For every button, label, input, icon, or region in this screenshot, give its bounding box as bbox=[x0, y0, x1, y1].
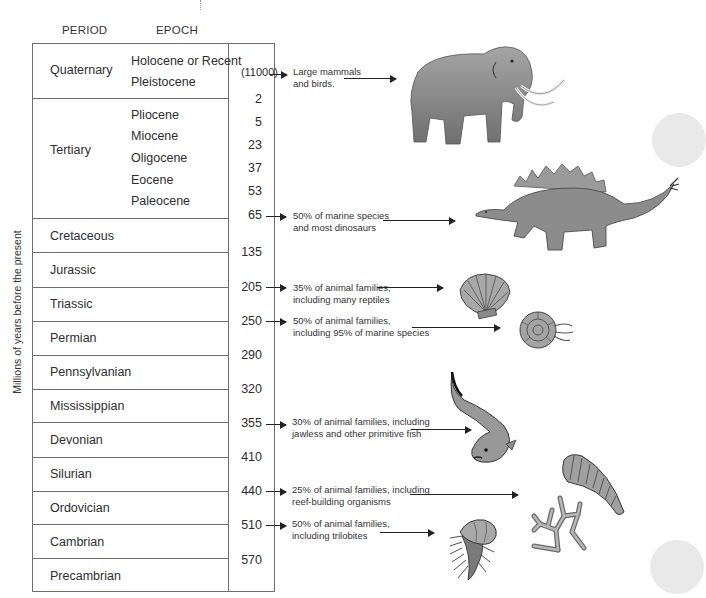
age-135: 135 bbox=[226, 245, 262, 259]
age-205: 205 bbox=[226, 280, 262, 294]
period-pennsylvanian: Pennsylvanian bbox=[50, 365, 131, 379]
age-53: 53 bbox=[226, 184, 262, 198]
row-divider bbox=[32, 457, 229, 458]
mammoth-icon bbox=[404, 42, 574, 152]
arrow-to-trilobite bbox=[380, 532, 434, 533]
period-cambrian: Cambrian bbox=[50, 535, 104, 549]
period-devonian: Devonian bbox=[50, 433, 103, 447]
row-divider bbox=[32, 355, 229, 356]
epoch-header: EPOCH bbox=[156, 24, 198, 36]
branching-coral-icon bbox=[528, 490, 588, 554]
epoch-paleocene: Paleocene bbox=[131, 194, 190, 208]
age-250: 250 bbox=[226, 314, 262, 328]
period-permian: Permian bbox=[50, 331, 97, 345]
arrow-to-mammoth bbox=[344, 78, 396, 79]
arrow-to-coral bbox=[410, 494, 518, 495]
row-divider bbox=[32, 389, 229, 390]
extinction-note-355: 30% of animal families, including jawles… bbox=[292, 416, 430, 440]
arrow-to-stegosaurus bbox=[383, 220, 455, 221]
epoch-pliocene: Pliocene bbox=[131, 108, 179, 122]
arrow-age-440 bbox=[266, 491, 286, 492]
age-37: 37 bbox=[226, 161, 262, 175]
arrow-age-205 bbox=[266, 287, 286, 288]
period-silurian: Silurian bbox=[50, 467, 92, 481]
age-65: 65 bbox=[226, 208, 262, 222]
arrow-age-65 bbox=[266, 216, 286, 217]
period-triassic: Triassic bbox=[50, 297, 93, 311]
arrow-age-510 bbox=[266, 525, 286, 526]
age-510: 510 bbox=[226, 518, 262, 532]
row-divider bbox=[32, 558, 229, 559]
row-divider bbox=[32, 287, 229, 288]
scallop-shell-icon bbox=[456, 272, 516, 318]
extinction-note-440: 25% of animal families, including reef-b… bbox=[292, 484, 430, 508]
extinction-note-510: 50% of animal families, including trilob… bbox=[292, 518, 390, 542]
period-precambrian: Precambrian bbox=[50, 569, 121, 583]
row-divider bbox=[32, 98, 229, 99]
row-divider bbox=[32, 491, 229, 492]
age-5: 5 bbox=[226, 115, 262, 129]
period-header: PERIOD bbox=[62, 24, 107, 36]
arrow-to-ammonite bbox=[412, 327, 500, 328]
epoch-eocene: Eocene bbox=[131, 173, 173, 187]
age-440: 440 bbox=[226, 484, 262, 498]
y-axis-label: Millions of years before the present bbox=[11, 227, 23, 397]
extinction-note-205: 35% of animal families, including many r… bbox=[293, 282, 391, 306]
extinction-note-65: 50% of marine species and most dinosaurs bbox=[293, 210, 389, 234]
epoch-holocene: Holocene or Recent bbox=[131, 54, 241, 68]
age-410: 410 bbox=[226, 450, 262, 464]
arrow-age-250 bbox=[266, 321, 286, 322]
row-divider bbox=[32, 218, 229, 219]
arrow-to-shell bbox=[377, 287, 443, 288]
period-tertiary: Tertiary bbox=[50, 143, 91, 157]
row-divider bbox=[32, 422, 229, 423]
period-mississippian: Mississippian bbox=[50, 399, 124, 413]
age-355: 355 bbox=[226, 416, 262, 430]
age-290: 290 bbox=[226, 348, 262, 362]
row-divider bbox=[32, 252, 229, 253]
age-320: 320 bbox=[226, 382, 262, 396]
row-divider bbox=[32, 321, 229, 322]
age-11000: (11000) bbox=[230, 66, 278, 78]
age-570: 570 bbox=[226, 553, 262, 567]
arrow-age-355 bbox=[266, 424, 286, 425]
period-jurassic: Jurassic bbox=[50, 263, 96, 277]
trilobite-icon bbox=[448, 516, 504, 586]
stegosaurus-icon bbox=[474, 164, 679, 256]
age-2: 2 bbox=[226, 92, 262, 106]
period-ordovician: Ordovician bbox=[50, 501, 110, 515]
period-quaternary: Quaternary bbox=[50, 63, 113, 77]
decorative-circle-top bbox=[652, 113, 706, 167]
jawless-fish-icon bbox=[448, 370, 520, 466]
age-23: 23 bbox=[226, 138, 262, 152]
decorative-circle-bottom bbox=[650, 540, 704, 594]
epoch-oligocene: Oligocene bbox=[131, 151, 187, 165]
arrow-age-11000 bbox=[270, 74, 287, 75]
epoch-pleistocene: Pleistocene bbox=[131, 75, 196, 89]
epoch-miocene: Miocene bbox=[131, 129, 178, 143]
ammonite-icon bbox=[518, 310, 574, 350]
period-cretaceous: Cretaceous bbox=[50, 229, 114, 243]
top-dotted-mark bbox=[200, 0, 202, 10]
extinction-note-250: 50% of animal families, including 95% of… bbox=[293, 315, 429, 339]
row-divider bbox=[32, 524, 229, 525]
